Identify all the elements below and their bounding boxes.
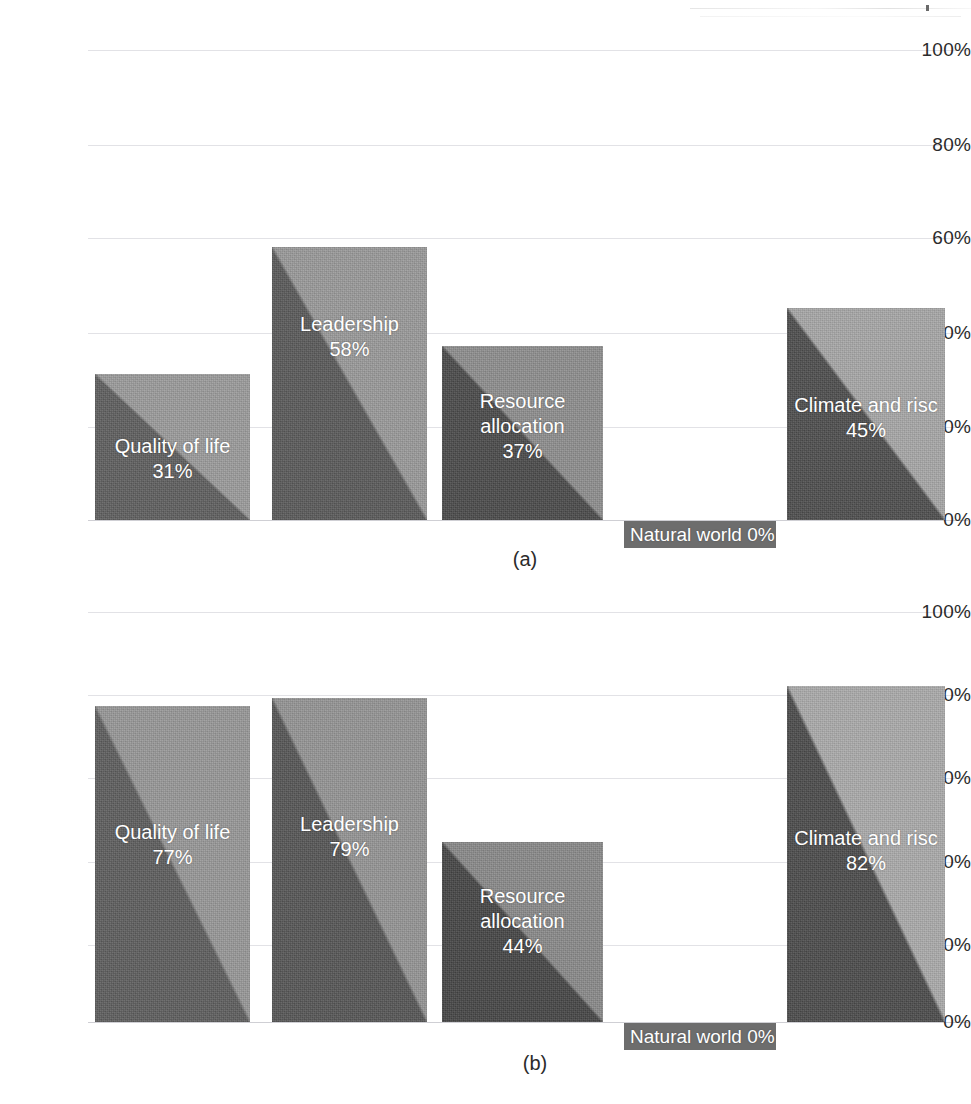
bar-label-value: 45% [766, 418, 966, 443]
bar-climate-and-risc[interactable]: Climate and risc 82% [787, 686, 945, 1022]
bar-quality-of-life[interactable]: Quality of life 77% [95, 706, 250, 1022]
bar-label-climate-and-risc: Climate and risc 82% [766, 826, 966, 876]
bar-label-quality-of-life: Quality of life 31% [73, 434, 273, 484]
bar-natural-world-zero-label[interactable]: Natural world 0% [624, 521, 776, 548]
y-axis-tick-100: 100% [893, 601, 971, 623]
bar-label-climate-and-risc: Climate and risc 45% [766, 393, 966, 443]
bar-label-resource-allocation: Resource allocation 37% [423, 389, 623, 464]
chart-panel-a: 100% 80% 60% 40% 20% 0% Quality of life … [0, 0, 971, 560]
bar-label-name-line2: allocation [423, 909, 623, 934]
bar-label-value: 58% [250, 337, 450, 362]
bar-label-name: Leadership [300, 313, 399, 335]
bar-leadership[interactable]: Leadership 58% [272, 247, 427, 520]
bar-label-resource-allocation: Resource allocation 44% [423, 884, 623, 959]
bar-label-leadership: Leadership 58% [250, 312, 450, 362]
bar-label-name-line1: Resource [480, 885, 566, 907]
bar-label-value: 82% [766, 851, 966, 876]
gridline-0 [88, 520, 968, 521]
bar-label-name: Quality of life [115, 435, 231, 457]
bar-label-value: 79% [250, 837, 450, 862]
bar-label-value: 77% [73, 845, 273, 870]
bar-label-value: 44% [423, 934, 623, 959]
panel-caption-b: (b) [495, 1052, 575, 1075]
bar-label-value: 37% [423, 439, 623, 464]
bar-resource-allocation[interactable]: Resource allocation 37% [442, 346, 603, 520]
y-axis-tick-80: 80% [893, 134, 971, 156]
bar-label-name-line2: allocation [423, 414, 623, 439]
bar-climate-and-risc[interactable]: Climate and risc 45% [787, 308, 945, 520]
figure-canvas: 100% 80% 60% 40% 20% 0% Quality of life … [0, 0, 971, 1104]
gridline-80 [88, 145, 968, 146]
bar-label-name: Quality of life [115, 821, 231, 843]
gridline-100 [88, 50, 968, 51]
bar-quality-of-life[interactable]: Quality of life 31% [95, 374, 250, 520]
bar-label-value: 31% [73, 459, 273, 484]
gridline-0 [88, 1022, 968, 1023]
bar-label-name-line1: Resource [480, 390, 566, 412]
gridline-60 [88, 238, 968, 239]
bar-fill [272, 247, 427, 520]
bar-label-quality-of-life: Quality of life 77% [73, 820, 273, 870]
bar-label-leadership: Leadership 79% [250, 812, 450, 862]
bar-natural-world-zero-label[interactable]: Natural world 0% [624, 1023, 776, 1050]
chart-panel-b: 100% 80% 60% 40% 20% 0% Quality of life … [0, 560, 971, 1104]
bar-leadership[interactable]: Leadership 79% [272, 698, 427, 1022]
bar-resource-allocation[interactable]: Resource allocation 44% [442, 842, 603, 1022]
bar-label-name: Climate and risc [794, 827, 937, 849]
y-axis-tick-60: 60% [893, 227, 971, 249]
gridline-100 [88, 612, 968, 613]
y-axis-tick-100: 100% [893, 39, 971, 61]
bar-label-name: Climate and risc [794, 394, 937, 416]
bar-label-name: Leadership [300, 813, 399, 835]
